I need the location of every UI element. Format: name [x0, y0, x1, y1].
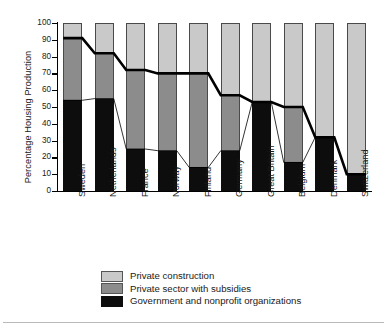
housing-production-chart: Percentage Housing Production 0102030405… [0, 0, 387, 331]
footer-divider [3, 322, 384, 323]
y-tick-label: 100 [37, 19, 51, 27]
y-tick-label: 60 [42, 86, 51, 94]
trend-line-overlay [57, 23, 372, 191]
thick-subsidized-share-line [63, 38, 366, 174]
legend: Private construction Private sector with… [101, 270, 301, 308]
y-tick-label: 90 [42, 36, 51, 44]
legend-swatch-private-construction [101, 271, 123, 282]
legend-item: Government and nonprofit organizations [101, 295, 301, 308]
y-tick-label: 0 [46, 187, 51, 195]
plot-area: 0102030405060708090100 SwedenNetherlands… [57, 23, 372, 191]
legend-item: Private sector with subsidies [101, 283, 301, 296]
y-tick-label: 10 [42, 170, 51, 178]
y-tick-label: 80 [42, 52, 51, 60]
y-axis-title: Percentage Housing Production [23, 27, 33, 207]
y-tick-label: 40 [42, 120, 51, 128]
y-tick-label: 70 [42, 69, 51, 77]
legend-swatch-private-subsidies [101, 283, 123, 294]
y-tick-label: 20 [42, 153, 51, 161]
legend-item: Private construction [101, 270, 301, 283]
legend-label: Private sector with subsidies [130, 284, 251, 294]
y-tick-mark [52, 191, 57, 192]
y-tick-label: 30 [42, 136, 51, 144]
legend-label: Private construction [130, 271, 214, 281]
y-tick-label: 50 [42, 103, 51, 111]
x-axis-line [57, 191, 372, 192]
legend-swatch-government-nonprofit [101, 296, 123, 307]
legend-label: Government and nonprofit organizations [130, 296, 301, 306]
